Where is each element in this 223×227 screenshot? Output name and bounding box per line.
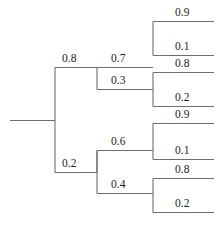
label-level2-lower-lower: 0.4 xyxy=(111,178,126,190)
label-level2-upper-upper: 0.7 xyxy=(111,52,126,64)
label-leaf-2: 0.1 xyxy=(175,40,190,52)
label-level2-lower-upper: 0.6 xyxy=(111,135,126,147)
label-level1-lower: 0.2 xyxy=(62,157,77,169)
label-leaf-3: 0.8 xyxy=(175,57,190,69)
label-leaf-6: 0.1 xyxy=(175,144,190,156)
probability-tree-figure: 0.8 0.2 0.7 0.3 0.6 0.4 0.9 0.1 0.8 0.2 … xyxy=(0,0,223,227)
label-leaf-8: 0.2 xyxy=(175,197,190,209)
label-level2-upper-lower: 0.3 xyxy=(111,74,126,86)
label-leaf-7: 0.8 xyxy=(175,163,190,175)
label-level1-upper: 0.8 xyxy=(62,52,77,64)
label-leaf-4: 0.2 xyxy=(175,91,190,103)
label-leaf-5: 0.9 xyxy=(175,108,190,120)
label-leaf-1: 0.9 xyxy=(175,6,190,18)
